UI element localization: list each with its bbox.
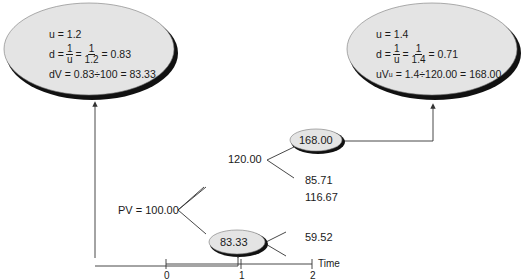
left-dv-line: dV = 0.83÷100 = 83.33 [49, 67, 156, 81]
time-axis-label: Time [318, 259, 340, 269]
node-ud-85-71: 85.71 [305, 175, 333, 186]
right-eq: = [402, 49, 408, 60]
right-d-prefix: d = [376, 49, 391, 60]
node-dd-59-52: 59.52 [305, 232, 333, 243]
right-u-line: u = 1.4 [376, 27, 501, 41]
left-callout-text: u = 1.2 d = 1 u = 1 1.2 = 0.83 dV = 0.83… [49, 27, 156, 81]
left-d-result: = 0.83 [102, 49, 132, 60]
left-d-prefix: d = [49, 49, 64, 60]
left-u-line: u = 1.2 [49, 27, 156, 41]
node-uu-168: 168.00 [299, 135, 333, 146]
left-eq: = [75, 49, 81, 60]
time-tick-0: 0 [164, 271, 170, 280]
right-frac1: 1 u [393, 44, 401, 65]
right-d-result: = 0.71 [429, 49, 459, 60]
node-du-116-67: 116.67 [305, 192, 338, 203]
node-down-83-33: 83.33 [220, 237, 248, 248]
left-frac2: 1 1.2 [84, 44, 100, 65]
left-frac1: 1 u [66, 44, 74, 65]
time-tick-2: 2 [310, 271, 316, 280]
node-up-120: 120.00 [228, 154, 262, 165]
right-frac2: 1 1.4 [411, 44, 427, 65]
right-uv-line: uVu = 1.4÷120.00 = 168.00 [376, 67, 501, 81]
node-root-pv: PV = 100.00 [118, 205, 179, 216]
right-d-formula: d = 1 u = 1 1.4 = 0.71 [376, 42, 501, 66]
left-d-formula: d = 1 u = 1 1.2 = 0.83 [49, 42, 156, 66]
right-callout-text: u = 1.4 d = 1 u = 1 1.4 = 0.71 uVu = 1.4… [376, 27, 501, 81]
time-tick-1: 1 [239, 271, 245, 280]
